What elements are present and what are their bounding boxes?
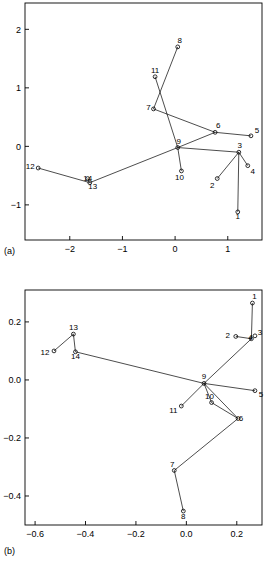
connector-line [73,334,75,352]
data-point-label: 2 [210,181,215,190]
data-point-label: 12 [26,162,35,171]
data-point-marker [253,334,257,338]
y-axis-tick-label: 0.0 [8,375,21,385]
y-axis-tick-label: −1 [11,200,21,210]
data-point-label: 7 [146,103,151,112]
point-group: 1234567891011121314 [41,292,264,521]
data-point-label: 9 [202,372,207,381]
x-axis-tick-label: 1 [225,244,230,254]
data-point-label: 3 [238,141,243,150]
plot-frame [25,3,262,240]
connector-line [238,152,239,212]
data-point-label: 14 [83,174,92,183]
scatter-panel-a: −2−101−10121234567891011121314 [0,0,268,283]
x-axis-tick-label: 0 [173,244,178,254]
panel-b-label: (b) [4,547,15,556]
x-axis-tick-label: 0.2 [231,529,244,539]
data-point-marker [215,177,219,181]
y-axis-tick-label: 0 [16,142,21,152]
connector-line [154,109,216,132]
connector-line [181,383,204,406]
connector-line [217,152,239,178]
data-point-label: 12 [41,348,50,357]
x-axis-tick-label: −0.4 [77,529,95,539]
connector-line [204,383,255,390]
connector-line [204,383,238,418]
data-point-label: 10 [175,173,184,182]
connector-line [178,132,215,147]
data-point-label: 13 [88,182,97,191]
data-point-label: 4 [251,167,256,176]
y-axis-tick-label: −0.4 [3,491,21,501]
data-point-label: 14 [71,352,80,361]
x-axis-tick-label: −0.6 [26,529,44,539]
y-axis-tick-label: 2 [16,25,21,35]
data-point-label: 1 [252,292,257,301]
data-point-label: 1 [236,212,241,221]
connector-line [90,148,178,183]
connector-line [239,152,248,165]
connector-line [174,470,183,511]
connector-line [178,148,239,153]
connector-line [178,148,182,171]
data-point-label: 2 [226,331,231,340]
data-point-label: 7 [170,460,175,469]
point-group: 1234567891011121314 [26,36,260,221]
data-point-label: 5 [255,126,260,135]
data-point-label: 3 [258,328,263,337]
data-point-marker [176,45,180,49]
connector-line [54,334,73,351]
x-axis-tick-label: −1 [117,244,127,254]
x-axis-tick-label: −0.2 [127,529,145,539]
data-point-label: 4 [248,333,253,342]
data-point-label: 6 [239,414,244,423]
x-axis-tick-label: −2 [65,244,75,254]
connector-line [38,168,90,183]
connector-line [215,132,251,136]
plot-frame [25,290,262,525]
data-point-label: 8 [178,36,183,45]
data-point-label: 11 [169,406,178,415]
data-point-label: 13 [69,323,78,332]
data-point-label: 8 [181,512,186,521]
data-point-label: 11 [151,66,160,75]
scatter-plot-a-canvas: −2−101−10121234567891011121314 [0,0,268,283]
data-point-marker [36,166,40,170]
data-point-label: 10 [205,392,214,401]
y-axis-tick-label: 0.2 [8,317,21,327]
data-point-label: 6 [216,121,221,130]
figure-container: −2−101−10121234567891011121314 −0.6−0.4−… [0,0,268,567]
connector-line [174,419,238,471]
connector-line [154,47,178,109]
y-axis-tick-label: 1 [16,83,21,93]
connector-line [75,352,204,384]
scatter-panel-b: −0.6−0.4−0.20.00.2−0.4−0.20.00.212345678… [0,283,268,567]
data-point-marker [52,349,56,353]
connector-line [204,339,251,384]
data-point-label: 5 [259,390,264,399]
connector-line [155,77,178,148]
scatter-plot-b-canvas: −0.6−0.4−0.20.00.2−0.4−0.20.00.212345678… [0,283,268,567]
data-point-label: 9 [177,137,182,146]
y-axis-tick-label: −0.2 [3,433,21,443]
x-axis-tick-label: 0.0 [180,529,193,539]
panel-a-label: (a) [4,247,15,256]
